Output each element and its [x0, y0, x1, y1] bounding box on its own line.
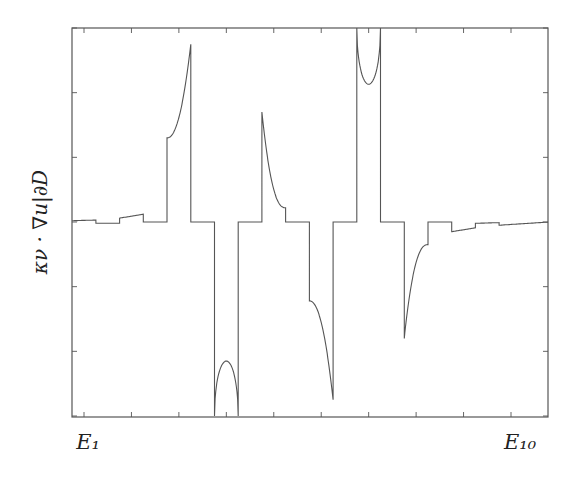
data-line [72, 28, 548, 416]
x-tick-label-first: E₁ [76, 430, 100, 454]
y-axis-label: κν · ∇u|∂D [28, 170, 52, 274]
chart [0, 0, 574, 477]
x-tick-label-last: E₁₀ [504, 430, 536, 454]
